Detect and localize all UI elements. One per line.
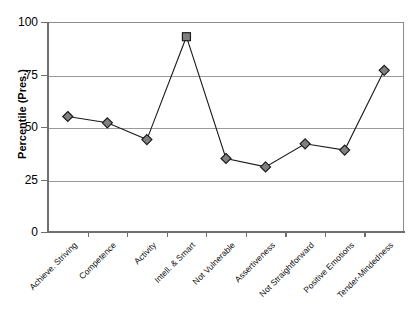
line-chart: Percentile (Pres.) 0255075100 Achieve. S…	[0, 0, 410, 309]
data-point-6	[300, 139, 310, 149]
data-point-2	[142, 135, 152, 145]
data-point-1	[102, 118, 112, 128]
series-line	[68, 37, 384, 167]
series-markers	[63, 33, 389, 172]
data-point-7	[340, 145, 350, 155]
data-point-8	[379, 65, 389, 75]
series-layer	[0, 0, 410, 309]
data-point-4	[221, 154, 231, 164]
data-point-3	[182, 33, 190, 41]
data-point-5	[261, 162, 271, 172]
data-point-0	[63, 112, 73, 122]
